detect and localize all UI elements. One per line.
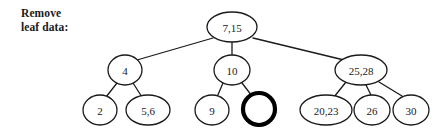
tree-node: 10	[214, 55, 250, 85]
tree-node: 20,23	[300, 95, 352, 125]
node-label: 10	[227, 65, 239, 77]
tree-diagram: 7,1541025,2825,6920,232630	[0, 0, 436, 128]
node-label: 4	[122, 65, 128, 77]
tree-node: 7,15	[207, 12, 257, 42]
tree-edge	[137, 38, 213, 60]
tree-edge	[133, 83, 142, 97]
diagram-canvas: Remove leaf data: 7,1541025,2825,6920,23…	[0, 0, 436, 128]
tree-edge	[106, 83, 117, 97]
node-label: 9	[209, 105, 215, 117]
tree-node: 9	[195, 95, 229, 125]
tree-edge	[366, 85, 371, 95]
node-label: 30	[406, 105, 418, 117]
tree-nodes: 7,1541025,2825,6920,232630	[83, 12, 429, 125]
tree-edge	[217, 83, 223, 97]
node-label: 7,15	[222, 22, 242, 34]
tree-node: 5,6	[126, 95, 170, 125]
tree-node-removed	[243, 93, 275, 125]
node-label: 5,6	[141, 105, 155, 117]
tree-node: 25,28	[335, 55, 387, 85]
node-label: 20,23	[314, 105, 339, 117]
node-label: 2	[97, 105, 103, 117]
node-label: 26	[367, 105, 379, 117]
tree-node: 26	[354, 95, 390, 125]
tree-edge	[379, 82, 402, 96]
tree-node: 30	[393, 95, 429, 125]
node-label: 25,28	[349, 65, 374, 77]
node-outline-bold	[243, 93, 275, 125]
tree-edge	[253, 38, 344, 60]
tree-edge	[334, 82, 346, 97]
tree-node: 4	[108, 55, 142, 85]
tree-node: 2	[83, 95, 117, 125]
